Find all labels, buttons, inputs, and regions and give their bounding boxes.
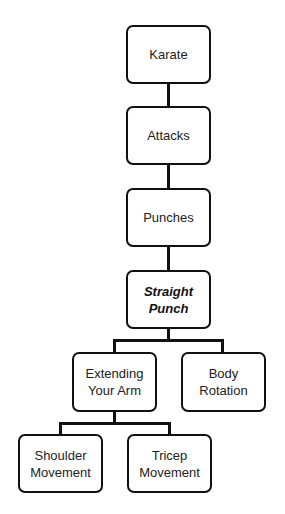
node-label: Shoulder Movement xyxy=(24,447,97,481)
connector-punches-straight xyxy=(167,246,170,271)
node-label: Punches xyxy=(143,209,194,226)
node-shoulder-movement: Shoulder Movement xyxy=(18,434,103,493)
node-straight-punch: Straight Punch xyxy=(126,270,211,329)
connector-attacks-punches xyxy=(167,164,170,189)
connector-branch-level1 xyxy=(113,339,224,342)
node-body-rotation: Body Rotation xyxy=(181,352,266,412)
node-label: Tricep Movement xyxy=(133,447,206,481)
node-attacks: Attacks xyxy=(126,106,211,165)
node-punches: Punches xyxy=(126,188,211,247)
node-label: Body Rotation xyxy=(193,365,254,399)
node-label: Attacks xyxy=(147,127,190,144)
connector-karate-attacks xyxy=(167,82,170,107)
node-label: Extending Your Arm xyxy=(80,365,149,399)
node-karate: Karate xyxy=(126,25,211,84)
connector-branch-level2 xyxy=(59,422,170,425)
connector-to-shoulder xyxy=(59,422,62,434)
connector-to-extending xyxy=(113,339,116,353)
node-tricep-movement: Tricep Movement xyxy=(127,434,212,493)
node-label: Karate xyxy=(149,46,187,63)
node-label: Straight Punch xyxy=(140,283,197,317)
node-extending-arm: Extending Your Arm xyxy=(72,352,157,412)
connector-to-body-rotation xyxy=(221,339,224,353)
connector-to-tricep xyxy=(168,422,171,434)
